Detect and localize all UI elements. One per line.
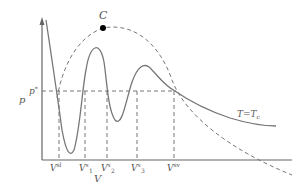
isotherm-label: T=Tc: [237, 109, 261, 120]
p-star-label: p*: [29, 85, 38, 96]
x-axis-label: V: [94, 173, 103, 184]
vsv-label: Vsv: [167, 161, 181, 173]
axes: [40, 17, 293, 160]
isotherm-curve: [46, 20, 276, 153]
vx3-label: Vx3: [131, 161, 145, 174]
vx2-label: Vx2: [101, 161, 115, 174]
critical-point: [100, 25, 106, 31]
critical-point-label: C: [99, 9, 108, 22]
y-axis-label: p: [19, 94, 26, 105]
vx1-label: Vx1: [79, 161, 93, 174]
vsl-label: Vsl: [50, 161, 62, 173]
pv-diagram: C p* p V T=Tc Vsl Vx1 Vx2 Vx3 Vsv: [0, 0, 296, 192]
volume-marker-lines: [59, 91, 174, 160]
y-axis-arrow-icon: [40, 17, 45, 25]
